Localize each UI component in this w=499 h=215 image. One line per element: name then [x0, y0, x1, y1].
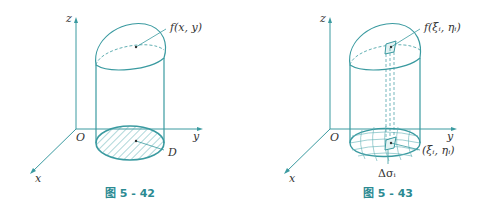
x-label: x — [35, 172, 42, 185]
area-element-label: Δσᵢ — [378, 167, 396, 180]
y-label: y — [446, 130, 454, 143]
region-d — [96, 126, 164, 160]
cylinder — [350, 23, 421, 164]
origin-label: O — [76, 131, 85, 144]
figure-caption: 图 5 - 42 — [105, 187, 155, 200]
x-label: x — [289, 172, 296, 185]
z-label: z — [65, 12, 72, 25]
x-axis — [286, 129, 330, 172]
z-arrow-icon — [328, 17, 332, 23]
surface-point — [390, 46, 392, 48]
region-label: D — [167, 146, 177, 159]
sample-point — [390, 142, 392, 144]
surface-label: f(x, y) — [169, 21, 202, 34]
surface-top — [350, 23, 421, 69]
surface-label: f(ξᵢ, ηᵢ) — [423, 21, 461, 34]
diagram-canvas: z y x O f(x, y) D 图 5 - 42 — [0, 0, 499, 215]
figure-5-42: z y x O f(x, y) D 图 5 - 42 — [30, 12, 203, 200]
z-label: z — [319, 12, 326, 25]
x-axis — [32, 129, 76, 172]
y-label: y — [192, 130, 200, 143]
figure-5-43: z y x O — [284, 12, 461, 200]
point-label: (ξᵢ, ηᵢ) — [422, 144, 455, 157]
figure-caption: 图 5 - 43 — [363, 187, 413, 200]
surface-top — [96, 23, 166, 69]
z-arrow-icon — [74, 17, 78, 23]
surface-point — [135, 46, 137, 48]
origin-label: O — [330, 131, 339, 144]
cylinder — [96, 23, 166, 160]
region-point — [135, 140, 137, 142]
partition-grid — [350, 126, 420, 161]
